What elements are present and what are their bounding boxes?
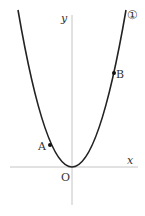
curve-label: ① bbox=[127, 8, 138, 22]
point-a-marker bbox=[48, 143, 52, 147]
y-axis-label: y bbox=[60, 12, 68, 25]
origin-label: O bbox=[61, 171, 70, 184]
point-a-label: A bbox=[37, 140, 47, 153]
parabola-diagram: A B O x y ① bbox=[0, 0, 145, 216]
point-b-label: B bbox=[116, 68, 124, 81]
x-axis-label: x bbox=[127, 154, 134, 167]
